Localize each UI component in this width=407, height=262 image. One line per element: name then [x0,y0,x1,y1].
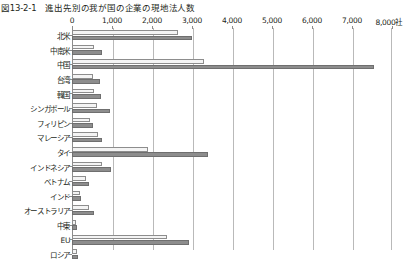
category-label: オーストラリア [24,205,70,216]
bar-group [72,174,392,189]
bar-series-2 [72,138,102,143]
figure-number: 図13-2-1 [1,1,36,13]
category-label: マレーシア [37,132,70,143]
bar-series-1 [72,147,148,152]
category-label: 中南米 [50,44,70,55]
bar-series-1 [72,191,80,196]
bar-series-1 [72,59,204,64]
bar-group [72,86,392,101]
bar-series-2 [72,240,189,245]
chart-row: インド [0,189,407,204]
category-label: インドネシア [30,161,70,172]
bar-rows: 北米中南米中国台湾韓国シンガポールフィリピンマレーシアタイインドネシアベトナムイ… [0,28,407,262]
bar-group [72,116,392,131]
bar-series-2 [72,36,192,41]
bar-group [72,57,392,72]
bar-series-2 [72,109,110,114]
bar-series-1 [72,205,89,210]
bar-group [72,218,392,233]
bar-series-2 [72,225,77,230]
x-axis-ticks: 01,0002,0003,0004,0005,0006,0007,0008,00… [0,16,407,28]
bar-group [72,28,392,43]
bar-group [72,130,392,145]
category-label: シンガポール [30,103,70,114]
bar-series-2 [72,211,94,216]
x-tick-label: 6,000 [302,16,322,25]
chart-row: シンガポール [0,101,407,116]
category-label: ベトナム [44,176,70,187]
bar-series-1 [72,118,90,123]
chart-row: 中南米 [0,43,407,58]
chart-row: 台湾 [0,72,407,87]
x-tick-label: 0 [70,16,74,25]
bar-series-2 [72,123,93,128]
bar-series-2 [72,182,89,187]
bar-series-2 [72,65,374,70]
x-tick-label: 5,000 [262,16,282,25]
bar-group [72,43,392,58]
bar-group [72,72,392,87]
bar-group [72,203,392,218]
bar-group [72,189,392,204]
chart-row: オーストラリア [0,203,407,218]
chart-row: ベトナム [0,174,407,189]
bar-series-2 [72,196,81,201]
bar-series-1 [72,30,178,35]
figure-title-row: 図13-2-1 進出先別の我が国の企業の現地法人数 [0,0,407,14]
bar-series-1 [72,103,97,108]
bar-series-2 [72,94,101,99]
bar-series-2 [72,50,102,55]
x-tick-label: 1,000 [102,16,122,25]
page-title: 進出先別の我が国の企業の現地法人数 [45,1,195,13]
bar-series-1 [72,176,86,181]
chart-row: 韓国 [0,86,407,101]
chart-row: マレーシア [0,130,407,145]
chart-row: フィリピン [0,116,407,131]
bar-series-1 [72,45,94,50]
chart-row: EU [0,232,407,247]
bar-series-2 [72,167,111,172]
x-tick-label: 8,000社 [375,16,402,27]
x-tick-label: 7,000 [342,16,362,25]
category-label: フィリピン [37,117,70,128]
bar-group [72,247,392,262]
chart-row: タイ [0,145,407,160]
bar-series-1 [72,235,167,240]
bar-group [72,232,392,247]
bar-series-1 [72,132,98,137]
chart-row: ロシア [0,247,407,262]
bar-series-2 [72,152,208,157]
bar-series-2 [72,79,100,84]
bar-series-2 [72,255,78,260]
bar-group [72,145,392,160]
chart-row: インドネシア [0,159,407,174]
bar-series-1 [72,74,93,79]
bar-series-1 [72,162,102,167]
category-label: ロシア [50,249,70,260]
bar-series-1 [72,220,76,225]
bar-group [72,101,392,116]
x-tick-label: 4,000 [222,16,242,25]
bar-series-1 [72,89,94,94]
chart-row: 北米 [0,28,407,43]
category-label: インド [50,190,70,201]
x-tick-label: 3,000 [182,16,202,25]
chart-row: 中東 [0,218,407,233]
bar-group [72,159,392,174]
bar-series-1 [72,249,77,254]
x-tick-label: 2,000 [142,16,162,25]
chart-row: 中国 [0,57,407,72]
